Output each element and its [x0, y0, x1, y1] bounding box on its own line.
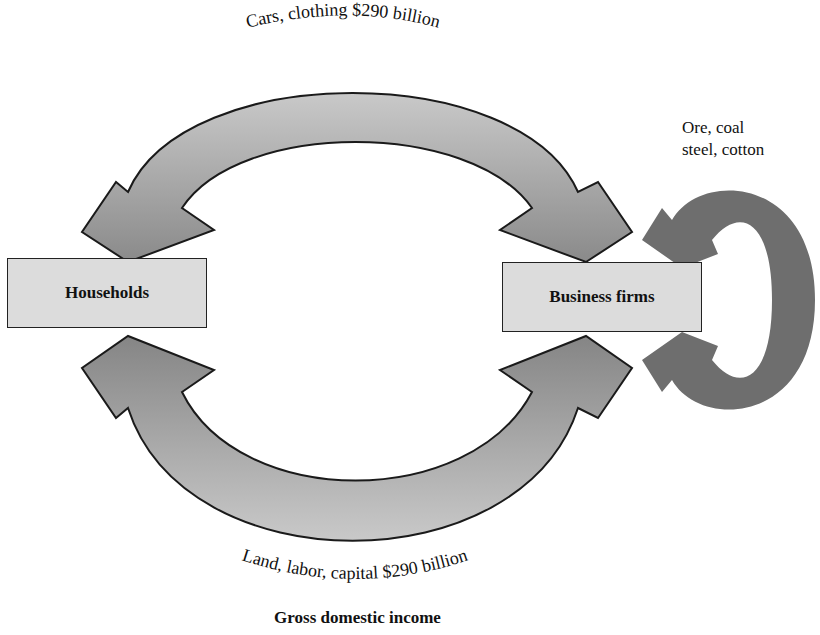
business-firms-label: Business firms	[549, 287, 654, 307]
self-loop-label-line2: steel, cotton	[682, 139, 764, 161]
households-node: Households	[7, 258, 207, 328]
top-flow-label: Cars, clothing $290 billion	[244, 0, 443, 32]
diagram-caption: Gross domestic income	[0, 608, 715, 628]
bottom-flow-label: Land, labor, capital $290 billion	[240, 545, 470, 583]
top-flow-arrow	[82, 93, 632, 262]
business-firms-node: Business firms	[502, 262, 702, 332]
self-loop-label-line1: Ore, coal	[682, 117, 764, 139]
households-label: Households	[65, 283, 149, 303]
self-loop-label: Ore, coal steel, cotton	[682, 117, 764, 161]
bottom-flow-arrow	[82, 336, 632, 541]
